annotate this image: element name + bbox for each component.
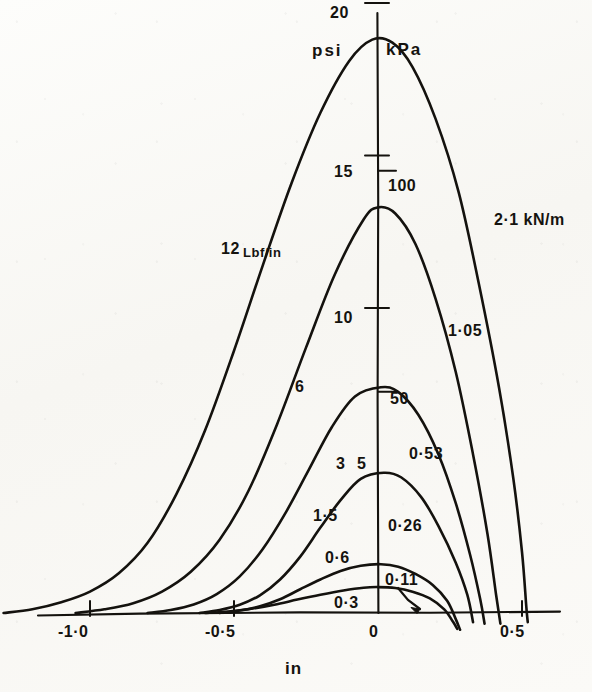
ytick-psi-10: 10 — [334, 310, 353, 326]
curve-label-0.6: 0·6 — [325, 550, 350, 566]
ytick-psi-20: 20 — [330, 5, 349, 21]
pressure-distribution-chart — [0, 0, 592, 692]
curve-label-12: 12 — [221, 241, 240, 257]
curve-label-0.3: 0·3 — [334, 595, 359, 611]
curve-label-0.26: 0·26 — [388, 518, 422, 534]
curve-2 — [76, 207, 501, 624]
curve-label-0.11: 0·11 — [385, 572, 418, 588]
yaxis-unit-psi: psi — [312, 42, 343, 59]
curve-label-1.05: 1·05 — [448, 323, 482, 339]
curve-label-0.53: 0·53 — [409, 446, 443, 462]
xtick-0: 0 — [369, 624, 378, 640]
curve-label-3: 3 — [336, 456, 345, 472]
ytick-kpa-100: 100 — [388, 178, 416, 194]
yaxis-unit-kpa: kPa — [386, 41, 422, 58]
curve-label-6: 6 — [295, 379, 304, 395]
xaxis-label: in — [285, 660, 302, 677]
curve-label-1.5: 1·5 — [313, 508, 338, 524]
ytick-psi-15: 15 — [334, 164, 353, 180]
curve-label-12-unit: Lbf/in — [243, 246, 281, 259]
curve-label-2.1-kn-m: 2·1 kN/m — [494, 212, 565, 228]
curve-3 — [148, 387, 485, 624]
axes-layer — [38, 3, 560, 616]
ytick-kpa-50: 50 — [390, 391, 409, 407]
xtick--1.0: -1·0 — [58, 624, 88, 640]
xtick-0.5: 0·5 — [500, 624, 525, 640]
curve-label-5: 5 — [357, 456, 366, 472]
xtick--0.5: -0·5 — [205, 624, 235, 640]
y-axis-line — [377, 13, 378, 613]
